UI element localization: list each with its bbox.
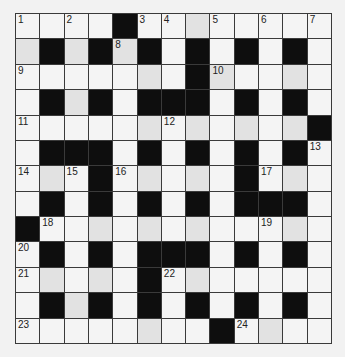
grid-cell[interactable] bbox=[283, 217, 306, 241]
grid-cell[interactable] bbox=[65, 268, 88, 292]
grid-cell[interactable] bbox=[283, 319, 306, 343]
grid-cell[interactable] bbox=[113, 192, 136, 216]
grid-cell[interactable] bbox=[259, 39, 282, 63]
grid-cell[interactable] bbox=[283, 14, 306, 38]
grid-cell[interactable] bbox=[235, 65, 258, 89]
grid-cell[interactable] bbox=[186, 268, 209, 292]
grid-cell[interactable]: 14 bbox=[16, 166, 39, 190]
grid-cell[interactable] bbox=[210, 217, 233, 241]
grid-cell[interactable] bbox=[138, 319, 161, 343]
grid-cell[interactable] bbox=[40, 319, 63, 343]
grid-cell[interactable] bbox=[308, 90, 331, 114]
grid-cell[interactable] bbox=[308, 166, 331, 190]
grid-cell[interactable] bbox=[210, 141, 233, 165]
grid-cell[interactable] bbox=[210, 39, 233, 63]
grid-cell[interactable]: 21 bbox=[16, 268, 39, 292]
grid-cell[interactable]: 4 bbox=[162, 14, 185, 38]
grid-cell[interactable] bbox=[283, 268, 306, 292]
grid-cell[interactable]: 20 bbox=[16, 242, 39, 266]
grid-cell[interactable]: 3 bbox=[138, 14, 161, 38]
grid-cell[interactable] bbox=[89, 14, 112, 38]
grid-cell[interactable] bbox=[235, 116, 258, 140]
grid-cell[interactable] bbox=[210, 166, 233, 190]
grid-cell[interactable] bbox=[40, 116, 63, 140]
grid-cell[interactable] bbox=[162, 166, 185, 190]
grid-cell[interactable] bbox=[259, 319, 282, 343]
grid-cell[interactable] bbox=[283, 116, 306, 140]
grid-cell[interactable] bbox=[235, 268, 258, 292]
grid-cell[interactable]: 11 bbox=[16, 116, 39, 140]
grid-cell[interactable] bbox=[65, 116, 88, 140]
grid-cell[interactable] bbox=[210, 242, 233, 266]
grid-cell[interactable] bbox=[259, 116, 282, 140]
grid-cell[interactable] bbox=[186, 14, 209, 38]
grid-cell[interactable] bbox=[16, 90, 39, 114]
grid-cell[interactable] bbox=[186, 217, 209, 241]
grid-cell[interactable] bbox=[308, 39, 331, 63]
grid-cell[interactable]: 23 bbox=[16, 319, 39, 343]
grid-cell[interactable] bbox=[89, 65, 112, 89]
grid-cell[interactable] bbox=[162, 65, 185, 89]
grid-cell[interactable] bbox=[40, 268, 63, 292]
grid-cell[interactable] bbox=[65, 65, 88, 89]
grid-cell[interactable]: 19 bbox=[259, 217, 282, 241]
grid-cell[interactable] bbox=[210, 90, 233, 114]
grid-cell[interactable] bbox=[113, 268, 136, 292]
grid-cell[interactable] bbox=[308, 293, 331, 317]
grid-cell[interactable] bbox=[308, 268, 331, 292]
grid-cell[interactable] bbox=[210, 268, 233, 292]
grid-cell[interactable]: 10 bbox=[210, 65, 233, 89]
grid-cell[interactable]: 13 bbox=[308, 141, 331, 165]
grid-cell[interactable] bbox=[65, 90, 88, 114]
grid-cell[interactable] bbox=[65, 319, 88, 343]
grid-cell[interactable] bbox=[259, 90, 282, 114]
grid-cell[interactable] bbox=[113, 293, 136, 317]
grid-cell[interactable] bbox=[40, 14, 63, 38]
grid-cell[interactable]: 8 bbox=[113, 39, 136, 63]
grid-cell[interactable] bbox=[65, 217, 88, 241]
grid-cell[interactable]: 9 bbox=[16, 65, 39, 89]
grid-cell[interactable]: 24 bbox=[235, 319, 258, 343]
grid-cell[interactable] bbox=[162, 192, 185, 216]
grid-cell[interactable]: 17 bbox=[259, 166, 282, 190]
grid-cell[interactable]: 2 bbox=[65, 14, 88, 38]
grid-cell[interactable] bbox=[210, 116, 233, 140]
grid-cell[interactable] bbox=[186, 166, 209, 190]
grid-cell[interactable] bbox=[308, 65, 331, 89]
grid-cell[interactable] bbox=[65, 293, 88, 317]
grid-cell[interactable]: 1 bbox=[16, 14, 39, 38]
grid-cell[interactable] bbox=[186, 319, 209, 343]
grid-cell[interactable] bbox=[138, 217, 161, 241]
grid-cell[interactable] bbox=[113, 242, 136, 266]
grid-cell[interactable] bbox=[259, 242, 282, 266]
grid-cell[interactable] bbox=[89, 268, 112, 292]
grid-cell[interactable]: 6 bbox=[259, 14, 282, 38]
grid-cell[interactable] bbox=[16, 293, 39, 317]
grid-cell[interactable] bbox=[89, 217, 112, 241]
grid-cell[interactable] bbox=[65, 242, 88, 266]
grid-cell[interactable] bbox=[162, 217, 185, 241]
grid-cell[interactable]: 22 bbox=[162, 268, 185, 292]
grid-cell[interactable] bbox=[89, 319, 112, 343]
grid-cell[interactable]: 16 bbox=[113, 166, 136, 190]
grid-cell[interactable] bbox=[40, 166, 63, 190]
grid-cell[interactable]: 18 bbox=[40, 217, 63, 241]
grid-cell[interactable] bbox=[65, 39, 88, 63]
grid-cell[interactable] bbox=[138, 65, 161, 89]
grid-cell[interactable] bbox=[16, 141, 39, 165]
grid-cell[interactable] bbox=[113, 319, 136, 343]
grid-cell[interactable] bbox=[113, 90, 136, 114]
grid-cell[interactable] bbox=[162, 39, 185, 63]
grid-cell[interactable] bbox=[162, 319, 185, 343]
grid-cell[interactable] bbox=[40, 65, 63, 89]
grid-cell[interactable]: 12 bbox=[162, 116, 185, 140]
grid-cell[interactable] bbox=[283, 65, 306, 89]
grid-cell[interactable] bbox=[65, 192, 88, 216]
grid-cell[interactable] bbox=[113, 116, 136, 140]
grid-cell[interactable] bbox=[113, 217, 136, 241]
grid-cell[interactable] bbox=[283, 166, 306, 190]
grid-cell[interactable] bbox=[308, 217, 331, 241]
grid-cell[interactable] bbox=[259, 65, 282, 89]
grid-cell[interactable] bbox=[162, 293, 185, 317]
grid-cell[interactable]: 7 bbox=[308, 14, 331, 38]
